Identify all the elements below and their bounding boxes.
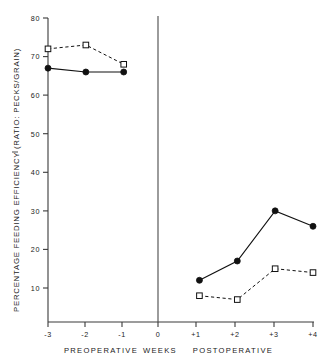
y-axis-title: PERCENTAGE FEEDING EFFICIENCY (RATIO: PE…: [12, 48, 21, 312]
axes-group: [48, 16, 314, 322]
y-tick-label-70: 70: [31, 52, 40, 61]
feeding-efficiency-line-chart: PERCENTAGE FEEDING EFFICIENCY (RATIO: PE…: [0, 0, 326, 364]
data-point-open-square-series--3: [45, 46, 51, 52]
x-tick-label-zero: 0: [156, 330, 161, 339]
x-tick-label-minus-1: -1: [118, 330, 126, 339]
data-point-filled-circle-series-+3: [272, 208, 278, 214]
data-point-filled-circle-series--2: [83, 69, 89, 75]
phase-captions-group: PREOPERATIVE WEEKS POSTOPERATIVE: [64, 346, 273, 355]
data-point-open-square-series-+3: [272, 266, 278, 272]
data-point-open-square-series-+1: [197, 293, 203, 299]
caption-preoperative: PREOPERATIVE: [64, 346, 138, 355]
y-axis-title-group: PERCENTAGE FEEDING EFFICIENCY (RATIO: PE…: [12, 48, 21, 312]
data-point-filled-circle-series--1: [121, 69, 127, 75]
series-filled-circle-series: [45, 65, 316, 283]
x-tick-label-plus-3: +3: [269, 330, 278, 339]
y-tick-label-50: 50: [31, 130, 40, 139]
caption-weeks: WEEKS: [143, 346, 177, 355]
chart-figure: PERCENTAGE FEEDING EFFICIENCY (RATIO: PE…: [0, 0, 326, 364]
data-series-layer: [45, 42, 316, 302]
y-tick-label-60: 60: [31, 91, 40, 100]
data-point-filled-circle-series-+1: [196, 277, 202, 283]
series-open-square-series: [45, 42, 316, 302]
x-tick-label-minus-3: -3: [44, 330, 52, 339]
x-tick-label-plus-2: +2: [230, 330, 239, 339]
caption-postoperative: POSTOPERATIVE: [193, 346, 273, 355]
data-point-filled-circle-series-+4: [310, 223, 316, 229]
data-point-open-square-series--2: [83, 42, 89, 48]
y-ticks-group: 80 70 60 50 40 30 20 10: [31, 14, 48, 293]
x-tick-label-plus-4: +4: [308, 330, 317, 339]
data-point-filled-circle-series-+2: [234, 258, 240, 264]
x-tick-label-plus-1: +1: [191, 330, 200, 339]
data-point-open-square-series--1: [121, 61, 127, 67]
data-point-filled-circle-series--3: [45, 65, 51, 71]
x-tick-label-minus-2: -2: [81, 330, 89, 339]
data-point-open-square-series-+4: [310, 270, 316, 276]
y-tick-label-10: 10: [31, 284, 40, 293]
y-tick-label-20: 20: [31, 245, 40, 254]
x-ticks-group: -3 -2 -1 0 +1 +2 +3 +4: [44, 322, 318, 339]
y-tick-label-80: 80: [31, 14, 40, 23]
y-tick-label-30: 30: [31, 207, 40, 216]
data-point-open-square-series-+2: [234, 297, 240, 303]
y-tick-label-40: 40: [31, 168, 40, 177]
series-line-filled-circle-series-segment-1: [199, 211, 313, 280]
series-line-open-square-series-segment-1: [199, 269, 313, 300]
